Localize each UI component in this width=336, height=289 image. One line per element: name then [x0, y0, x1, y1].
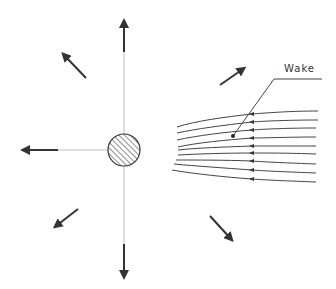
hatched-body — [108, 134, 140, 166]
streamline — [178, 146, 316, 150]
arrow-up-left-icon — [64, 55, 86, 78]
arrowhead-icon — [249, 120, 254, 124]
arrow-down-right-icon — [210, 216, 231, 239]
arrowhead-icon — [249, 128, 254, 132]
wake-label: Wake — [284, 63, 315, 74]
streamlines — [172, 111, 318, 182]
arrow-up-right-icon — [220, 69, 243, 85]
wake-diagram: Wake — [0, 0, 336, 289]
streamline — [174, 164, 316, 173]
arrowhead-icon — [249, 151, 254, 155]
arrowhead-icon — [249, 168, 254, 172]
arrowhead-icon — [249, 144, 254, 148]
streamline — [177, 111, 318, 127]
arrowhead-icon — [249, 177, 254, 181]
arrow-down-left-icon — [56, 209, 78, 226]
streamline — [176, 160, 316, 164]
arrowhead-icon — [249, 159, 254, 163]
arrowhead-icon — [249, 136, 254, 140]
streamline — [178, 153, 316, 155]
wake-callout: Wake — [231, 63, 322, 138]
